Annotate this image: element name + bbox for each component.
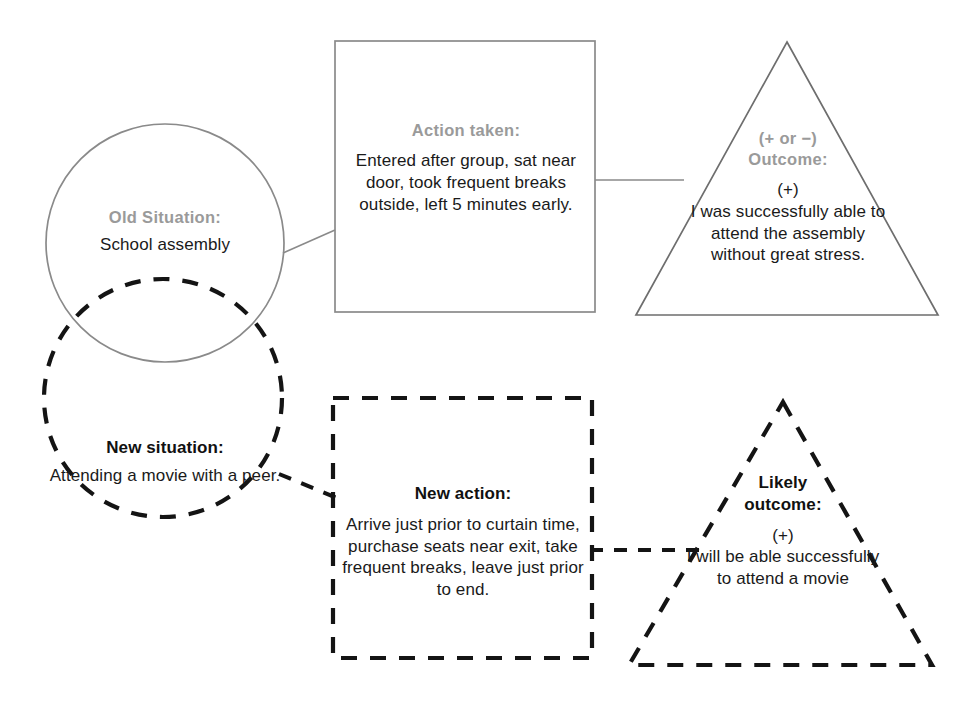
old-situation-value: School assembly [45, 234, 285, 256]
likely-outcome-label-line2: outcome: [678, 494, 888, 516]
spacer [341, 141, 591, 150]
likely-outcome-sign: (+) [678, 525, 888, 547]
connector-new-situation-to-new-action [279, 474, 337, 498]
new-situation-label: New situation: [45, 437, 285, 459]
action-taken-value: Entered after group, sat near door, took… [341, 150, 591, 215]
new-situation-text-block: New situation: Attending a movie with a … [45, 437, 285, 487]
new-situation-value: Attending a movie with a peer. [45, 465, 285, 487]
action-taken-text-block: Action taken: Entered after group, sat n… [341, 120, 591, 215]
new-action-label: New action: [338, 483, 588, 505]
likely-outcome-label-line1: Likely [678, 472, 888, 494]
new-action-text-block: New action: Arrive just prior to curtain… [338, 483, 588, 601]
outcome-label-line2: Outcome: [683, 149, 893, 170]
outcome-value: I was successfully able to attend the as… [683, 201, 893, 266]
old-situation-text-block: Old Situation: School assembly [45, 207, 285, 256]
outcome-label-line1: (+ or −) [683, 128, 893, 149]
new-action-value: Arrive just prior to curtain time, purch… [338, 514, 588, 601]
diagram-canvas: Old Situation: School assembly Action ta… [0, 0, 974, 714]
old-situation-label: Old Situation: [45, 207, 285, 228]
outcome-text-block: (+ or −) Outcome: (+) I was successfully… [683, 128, 893, 266]
outcome-sign: (+) [683, 179, 893, 201]
action-taken-label: Action taken: [341, 120, 591, 141]
connector-old-situation-to-action [283, 230, 335, 253]
likely-outcome-value: I will be able successfully to attend a … [678, 546, 888, 590]
spacer [678, 516, 888, 525]
diagram-shapes [0, 0, 974, 714]
spacer [683, 170, 893, 179]
likely-outcome-text-block: Likely outcome: (+) I will be able succe… [678, 472, 888, 590]
spacer [338, 505, 588, 514]
